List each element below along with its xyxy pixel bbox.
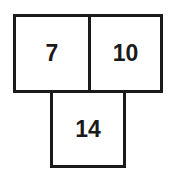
box-value: 7	[46, 40, 59, 67]
box-top-left: 7	[13, 14, 91, 93]
box-top-right: 10	[88, 14, 163, 93]
box-value: 14	[75, 116, 101, 143]
box-bottom: 14	[50, 90, 126, 168]
box-value: 10	[113, 40, 139, 67]
